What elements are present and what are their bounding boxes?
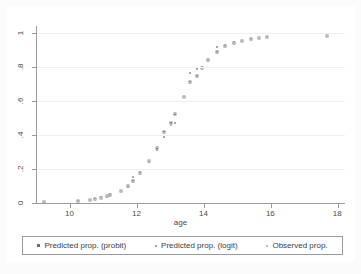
data-point (250, 39, 252, 41)
legend-label-logit: Predicted prop. (logit) (161, 241, 237, 250)
y-axis-tick-label: 0 (14, 199, 28, 207)
x-axis-tick (204, 203, 205, 208)
y-axis-tick (32, 169, 37, 170)
x-axis-title: age (6, 218, 355, 227)
data-point (106, 195, 108, 197)
data-point (156, 146, 158, 148)
data-point (156, 149, 158, 151)
x-axis-tick-label: 14 (199, 210, 208, 218)
gridline (37, 67, 345, 68)
data-point (139, 173, 141, 175)
y-axis-tick-label: .8 (14, 63, 28, 71)
y-axis-tick (32, 101, 37, 102)
data-point (77, 201, 79, 203)
x-axis-tick (137, 203, 138, 208)
x-axis-tick-label: 10 (65, 210, 74, 218)
chart-legend: Predicted prop. (probit) Predicted prop.… (22, 236, 343, 255)
data-point (100, 197, 102, 199)
data-point (43, 201, 45, 203)
x-axis-tick (271, 203, 272, 208)
legend-label-observed: Observed prop. (272, 241, 327, 250)
data-point (163, 132, 165, 134)
y-axis-tick-label: .6 (14, 97, 28, 105)
x-axis-tick-label: 18 (333, 210, 342, 218)
data-point (174, 112, 176, 114)
legend-marker-observed-icon (266, 245, 268, 247)
legend-label-probit: Predicted prop. (probit) (44, 241, 126, 250)
data-point (120, 190, 122, 192)
data-point (132, 181, 134, 183)
plot-area (36, 26, 345, 204)
gridline (37, 101, 345, 102)
data-point (132, 176, 134, 178)
y-axis-tick-label: .2 (14, 165, 28, 173)
gridline (37, 33, 345, 34)
data-point (241, 40, 243, 42)
data-point (127, 184, 129, 186)
data-point (148, 160, 150, 162)
x-axis-tick-label: 12 (132, 210, 141, 218)
legend-item-logit[interactable]: Predicted prop. (logit) (155, 241, 237, 250)
data-point (233, 43, 235, 45)
x-axis-tick (338, 203, 339, 208)
data-point (216, 52, 218, 54)
data-point (94, 199, 96, 201)
chart-screenshot: 0.2.4.6.81 1012141618 age Predicted prop… (0, 0, 361, 274)
data-point (266, 36, 268, 38)
gridline (37, 135, 345, 136)
y-axis-tick-label: 1 (14, 29, 28, 37)
data-point (189, 82, 191, 84)
x-axis-tick (70, 203, 71, 208)
graph-region: 0.2.4.6.81 1012141618 age Predicted prop… (6, 6, 355, 262)
data-point (201, 68, 203, 70)
data-point (163, 136, 165, 138)
data-point (224, 46, 226, 48)
data-point (258, 37, 260, 39)
plot-canvas (37, 26, 345, 203)
data-point (196, 76, 198, 78)
data-point (89, 199, 91, 201)
legend-item-observed[interactable]: Observed prop. (266, 241, 327, 250)
y-axis-tick (32, 33, 37, 34)
y-axis-tick (32, 203, 37, 204)
y-axis-tick (32, 135, 37, 136)
y-axis-tick (32, 67, 37, 68)
y-axis-tick-label: .4 (14, 131, 28, 139)
legend-marker-probit-icon (37, 244, 40, 247)
gridline (37, 169, 345, 170)
data-point (170, 124, 172, 126)
legend-marker-logit-icon (155, 245, 157, 247)
legend-item-probit[interactable]: Predicted prop. (probit) (37, 241, 126, 250)
x-axis-tick-label: 16 (266, 210, 275, 218)
data-point (189, 72, 191, 74)
data-point (183, 96, 185, 98)
data-point (174, 122, 176, 124)
data-point (196, 68, 198, 70)
data-point (207, 58, 209, 60)
data-point (216, 46, 218, 48)
data-point (326, 35, 328, 37)
data-point (109, 195, 111, 197)
